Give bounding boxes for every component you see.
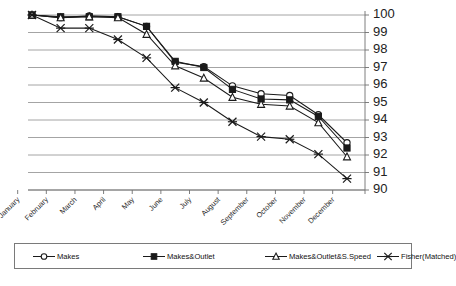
x-tick-label: October (254, 195, 279, 220)
chart-legend: MakesMakes&OutletMakes&Outlet&S.SpeedFis… (14, 243, 412, 269)
y-tick-label: 91 (373, 164, 387, 179)
data-point-marker (56, 24, 65, 32)
x-tick-label: May (120, 195, 136, 211)
open-triangle-icon (265, 251, 287, 262)
y-tick-labels: 10099989796959493929190 (373, 6, 395, 196)
legend-label: Makes&Outlet (167, 252, 215, 261)
data-point-marker (41, 253, 47, 259)
y-tick-label: 93 (373, 129, 387, 144)
data-point-marker (142, 54, 151, 62)
legend-entry-makes-outlet[interactable]: Makes&Outlet (143, 251, 215, 262)
data-point-marker (256, 133, 265, 141)
y-tick-label: 92 (373, 146, 387, 161)
data-point-marker (201, 64, 207, 70)
legend-entry-makes[interactable]: Makes (33, 251, 79, 262)
y-tick-label: 98 (373, 41, 387, 56)
data-point-marker (85, 24, 94, 32)
data-point-marker (314, 150, 323, 158)
x-tick-label: December (306, 195, 337, 226)
data-point-marker (342, 175, 351, 183)
x-tick-label: February (23, 195, 50, 222)
y-tick-label: 100 (373, 6, 395, 21)
data-point-marker (285, 135, 294, 143)
legend-entry-fisher-matched[interactable]: Fisher(Matched) (377, 251, 456, 262)
series-line (32, 15, 347, 148)
x-tick-label: June (147, 195, 165, 213)
legend-label: Makes&Outlet&S.Speed (289, 252, 371, 261)
series-makes (29, 12, 350, 146)
legend-label: Makes (57, 252, 79, 261)
data-point-marker (113, 36, 122, 44)
series-line (32, 15, 347, 143)
x-tick-label: September (219, 195, 251, 227)
x-tick-label: January (0, 195, 22, 220)
data-point-marker (384, 252, 393, 259)
data-point-marker (151, 253, 157, 259)
x-tick-label: March (58, 195, 79, 216)
series-line (32, 15, 347, 179)
filled-square-icon (143, 251, 165, 262)
y-axis (365, 11, 369, 194)
data-point-marker (228, 118, 237, 126)
y-tick-label: 90 (373, 181, 387, 196)
legend-entry-makes-outlet-s-speed[interactable]: Makes&Outlet&S.Speed (265, 251, 371, 262)
y-tick-label: 94 (373, 111, 387, 126)
gridlines (28, 15, 365, 190)
y-tick-label: 97 (373, 59, 387, 74)
y-tick-label: 95 (373, 94, 387, 109)
series-lines (27, 11, 351, 183)
x-tick-label: July (178, 195, 194, 211)
x-tick-label: April (90, 195, 107, 212)
x-tick-label: November (277, 195, 308, 226)
x-tick-label: August (199, 195, 222, 218)
x-axis (18, 190, 365, 194)
data-point-marker (143, 31, 150, 38)
x-tick-labels: JanuaryFebruaryMarchAprilMayJuneJulyAugu… (0, 195, 337, 227)
series-fisher-matched (27, 11, 351, 183)
data-point-marker (143, 23, 149, 29)
series-line (32, 15, 347, 157)
chart-svg: 10099989796959493929190 JanuaryFebruaryM… (0, 0, 425, 240)
y-tick-label: 99 (373, 24, 387, 39)
cross-x-icon (377, 251, 399, 262)
data-point-marker (229, 86, 235, 92)
data-point-marker (199, 99, 208, 107)
data-point-marker (229, 94, 236, 101)
y-tick-label: 96 (373, 76, 387, 91)
legend-label: Fisher(Matched) (401, 252, 456, 261)
open-circle-icon (33, 251, 55, 262)
data-point-marker (344, 145, 350, 151)
data-point-marker (200, 74, 207, 81)
plot-area: 10099989796959493929190 JanuaryFebruaryM… (0, 0, 425, 240)
